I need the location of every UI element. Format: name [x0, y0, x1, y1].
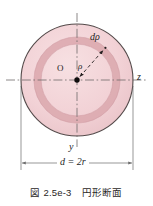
figure-container: z y O ρ dρ d = 2r 図 2.5e-3 円形断面	[0, 0, 153, 206]
figure-caption: 図 2.5e-3 円形断面	[0, 185, 153, 199]
origin-point	[74, 77, 79, 82]
axis-label-z: z	[137, 72, 141, 82]
axis-label-y: y	[69, 142, 73, 152]
circular-cross-section-diagram	[0, 0, 153, 206]
radius-variable-label: ρ	[78, 62, 82, 71]
origin-label: O	[57, 64, 64, 73]
differential-radius-label: dρ	[90, 32, 100, 42]
diameter-label: d = 2r	[57, 157, 89, 167]
drho-tick-dot	[104, 47, 106, 49]
